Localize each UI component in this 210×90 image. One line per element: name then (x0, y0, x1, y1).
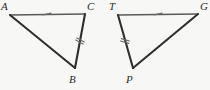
vertex-label-g: G (200, 1, 208, 12)
tick-marks-layer (43, 13, 162, 44)
vertex-label-t: T (109, 1, 115, 12)
side-AB (10, 15, 75, 68)
vertex-label-a: A (1, 1, 8, 12)
vertex-label-b: B (69, 74, 76, 85)
vertex-label-c: C (87, 1, 94, 12)
triangle-TPG (118, 14, 198, 68)
vertex-label-p: P (126, 74, 133, 85)
geometry-figure: ACBTGP (0, 0, 210, 90)
side-PG (133, 14, 198, 68)
figure-canvas (0, 0, 210, 90)
side-TP (118, 15, 133, 68)
triangle-ACB (10, 14, 85, 68)
